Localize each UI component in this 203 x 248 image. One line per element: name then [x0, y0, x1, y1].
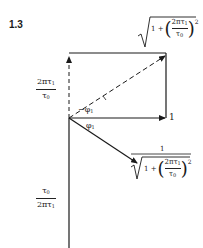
bottom-numerator: 1 — [160, 145, 164, 153]
reciprocal-vector-arrow — [69, 118, 137, 163]
bottom-inner-fraction: 2πτ1 τ0 — [165, 158, 181, 179]
angle-arc-mark — [103, 96, 106, 100]
upper-label-den-sub: 0 — [47, 94, 50, 100]
top-magnitude-expression: 1 + ( 2πτ1 τ0 ) 2 — [151, 18, 199, 39]
pos-phi-sub: 1 — [92, 124, 95, 130]
negative-phase-angle-label: −φ1 — [78, 105, 94, 114]
lower-label-den-sub: 1 — [52, 203, 55, 209]
upper-label-num-sub: 1 — [52, 80, 55, 86]
top-right-paren: ) — [188, 20, 195, 38]
bottom-inner-bar — [165, 168, 181, 169]
upper-label-numerator: 2πτ — [37, 77, 52, 86]
upper-label-bar — [36, 89, 56, 90]
lower-label-bar — [36, 198, 56, 199]
bottom-magnitude-expression: 1 + ( 2πτ1 τ0 ) 2 — [144, 158, 192, 179]
upper-axis-label: 2πτ1 τ0 — [36, 77, 56, 102]
neg-phi-sub: 1 — [90, 108, 93, 114]
lower-axis-label: τ0 2πτ1 — [36, 186, 56, 211]
lower-label-num-sub: 0 — [47, 189, 50, 195]
bottom-exponent: 2 — [188, 158, 192, 165]
bottom-left-paren: ( — [158, 160, 165, 178]
top-exponent: 2 — [195, 18, 199, 25]
unit-label: 1 — [169, 112, 175, 122]
top-inner-den-sub: 0 — [180, 32, 183, 38]
bottom-inner-num: 2πτ — [165, 158, 178, 166]
top-inner-num: 2πτ — [172, 18, 185, 26]
top-inner-fraction: 2πτ1 τ0 — [172, 18, 188, 39]
top-inner-bar — [172, 28, 188, 29]
bottom-right-paren: ) — [181, 160, 188, 178]
bottom-inner-den-sub: 0 — [173, 172, 176, 178]
positive-phase-angle-label: φ1 — [86, 121, 95, 130]
neg-phi: −φ — [78, 105, 90, 114]
top-expr-prefix: 1 + — [151, 25, 164, 33]
bottom-expr-prefix: 1 + — [144, 165, 157, 173]
lower-label-denominator: 2πτ — [37, 200, 52, 209]
top-left-paren: ( — [165, 20, 172, 38]
